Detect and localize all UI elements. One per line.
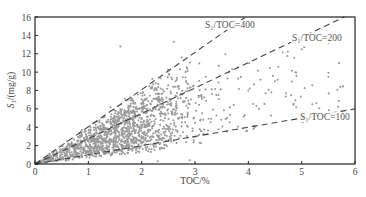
data-point bbox=[126, 152, 128, 154]
data-point bbox=[137, 93, 139, 95]
data-point bbox=[153, 98, 155, 100]
data-point bbox=[167, 76, 169, 78]
data-point bbox=[99, 127, 101, 129]
data-point bbox=[95, 138, 97, 140]
data-point bbox=[166, 88, 168, 90]
data-point bbox=[97, 150, 99, 152]
data-point bbox=[77, 148, 79, 150]
data-point bbox=[100, 137, 102, 139]
data-point bbox=[249, 87, 251, 89]
data-point bbox=[99, 125, 101, 127]
data-point bbox=[192, 85, 194, 87]
data-point bbox=[153, 149, 155, 151]
data-point bbox=[125, 135, 127, 137]
data-point bbox=[110, 116, 112, 118]
data-point bbox=[93, 127, 95, 129]
data-point bbox=[123, 117, 125, 119]
data-point bbox=[123, 137, 125, 139]
data-point bbox=[82, 146, 84, 148]
data-point bbox=[109, 140, 111, 142]
data-point bbox=[176, 131, 178, 133]
data-point bbox=[303, 46, 305, 48]
data-point bbox=[155, 82, 157, 84]
data-point bbox=[163, 90, 165, 92]
data-point bbox=[177, 97, 179, 99]
data-point bbox=[193, 141, 195, 143]
data-point bbox=[140, 102, 142, 104]
data-point bbox=[121, 144, 123, 146]
data-point bbox=[148, 148, 150, 150]
data-point bbox=[143, 131, 145, 133]
y-tick-label: 0 bbox=[26, 160, 31, 170]
data-point bbox=[121, 151, 123, 153]
data-point bbox=[95, 128, 97, 130]
data-point bbox=[161, 92, 163, 94]
data-point bbox=[152, 83, 154, 85]
data-point bbox=[217, 94, 219, 96]
data-point bbox=[145, 99, 147, 101]
data-point bbox=[157, 93, 159, 95]
data-point bbox=[146, 132, 148, 134]
data-point bbox=[60, 149, 62, 151]
data-point bbox=[185, 80, 187, 82]
data-point bbox=[142, 137, 144, 139]
data-point bbox=[170, 77, 172, 79]
data-point bbox=[163, 132, 165, 134]
data-point bbox=[155, 98, 157, 100]
data-point bbox=[217, 82, 219, 84]
data-point bbox=[172, 119, 174, 121]
data-point bbox=[112, 121, 114, 123]
data-point bbox=[170, 139, 172, 141]
data-point bbox=[142, 121, 144, 123]
y-tick-label: 16 bbox=[22, 13, 32, 23]
data-point bbox=[102, 148, 104, 150]
data-point bbox=[211, 93, 213, 95]
data-point bbox=[167, 112, 169, 114]
data-point bbox=[72, 158, 74, 160]
data-point bbox=[54, 158, 56, 160]
data-point bbox=[126, 143, 128, 145]
data-point bbox=[175, 100, 177, 102]
data-point bbox=[151, 78, 153, 80]
data-point bbox=[172, 129, 174, 131]
data-point bbox=[148, 129, 150, 131]
data-point bbox=[79, 150, 81, 152]
data-point bbox=[248, 62, 250, 64]
data-point bbox=[76, 152, 78, 154]
data-point bbox=[186, 116, 188, 118]
data-point bbox=[158, 139, 160, 141]
data-point bbox=[157, 135, 159, 137]
data-point bbox=[229, 114, 231, 116]
data-point bbox=[116, 116, 118, 118]
data-point bbox=[169, 128, 171, 130]
data-point bbox=[168, 130, 170, 132]
data-point bbox=[67, 145, 69, 147]
data-point bbox=[142, 100, 144, 102]
data-point bbox=[318, 107, 320, 109]
data-point bbox=[192, 127, 194, 129]
data-point bbox=[135, 142, 137, 144]
data-point bbox=[170, 133, 172, 135]
data-point bbox=[168, 98, 170, 100]
data-point bbox=[200, 94, 202, 96]
data-point bbox=[157, 160, 159, 162]
data-point bbox=[159, 112, 161, 114]
data-point bbox=[292, 103, 294, 105]
data-point bbox=[176, 79, 178, 81]
y-tick-label: 8 bbox=[26, 86, 31, 96]
data-point bbox=[150, 143, 152, 145]
data-point bbox=[73, 139, 75, 141]
data-point bbox=[142, 148, 144, 150]
data-point bbox=[124, 153, 126, 155]
data-point bbox=[220, 119, 222, 121]
data-point bbox=[195, 110, 197, 112]
data-point bbox=[151, 135, 153, 137]
data-point bbox=[106, 144, 108, 146]
data-point bbox=[245, 130, 247, 132]
data-point bbox=[166, 145, 168, 147]
data-point bbox=[134, 107, 136, 109]
data-point bbox=[140, 130, 142, 132]
data-point bbox=[135, 149, 137, 151]
data-point bbox=[133, 127, 135, 129]
data-point bbox=[185, 141, 187, 143]
